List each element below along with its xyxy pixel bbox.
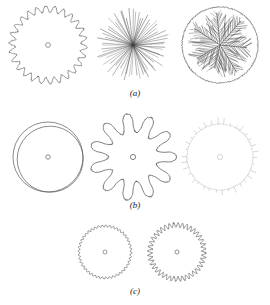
figure-panel-fine-scalloped-disc-small: [69, 216, 141, 288]
fine-scalloped-disc-small-drawing: [69, 216, 141, 288]
figure-panel-faint-ticked-circle: [177, 114, 263, 200]
figure-panel-branched-dendrite-disc: [172, 0, 268, 93]
wavy-dendritic-disc-drawing: [2, 0, 94, 91]
figure-panel-radial-needle-starburst: [85, 0, 181, 93]
figure-panel-lobed-flower-disc: [89, 113, 177, 201]
row-label-c: (c): [0, 286, 270, 296]
double-offset-circle-drawing: [3, 112, 93, 202]
figure-plate: (a)(b)(c): [0, 0, 270, 305]
coarse-scalloped-disc-small-drawing: [140, 215, 214, 289]
radial-needle-starburst-drawing: [85, 0, 181, 93]
figure-panel-double-offset-circle: [3, 112, 93, 202]
row-label-a: (a): [0, 88, 270, 98]
figure-panel-wavy-dendritic-disc: [2, 0, 94, 91]
faint-ticked-circle-drawing: [177, 114, 263, 200]
lobed-flower-disc-drawing: [89, 113, 177, 201]
branched-dendrite-disc-drawing: [172, 0, 268, 93]
figure-panel-coarse-scalloped-disc-small: [140, 215, 214, 289]
row-label-b: (b): [0, 200, 270, 210]
